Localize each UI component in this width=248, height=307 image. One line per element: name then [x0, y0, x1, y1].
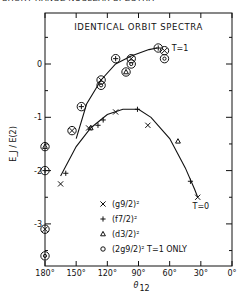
chart: 180°150°120°90°60°30°0°θ120-1-2-3E_J / E…: [0, 0, 248, 307]
t0-label: T=0: [192, 202, 210, 211]
x-tick-label: 30°: [194, 269, 208, 278]
legend-item: (f7/2)²: [100, 215, 137, 224]
series-t-0-g9-2-2: [58, 109, 200, 199]
svg-text:(2g9/2)² T=1 ONLY: (2g9/2)² T=1 ONLY: [112, 245, 187, 254]
x-tick-label: 0°: [227, 269, 236, 278]
y-tick-label: -1: [34, 113, 42, 122]
x-tick-label: 150°: [67, 269, 86, 278]
x-tick-label: 120°: [98, 269, 117, 278]
t1-curve: [76, 48, 157, 139]
t1-label: T=1: [171, 44, 189, 53]
series-t-1-f7-2-2: [41, 44, 163, 175]
plot-frame: [45, 13, 232, 266]
svg-text:(f7/2)²: (f7/2)²: [112, 215, 137, 224]
x-tick-label: 180°: [35, 269, 54, 278]
x-axis-label: θ: [134, 281, 139, 290]
x-tick-label: 90°: [131, 269, 145, 278]
y-axis-label: E_J / E(2): [9, 126, 18, 162]
y-tick-label: 0: [37, 60, 42, 69]
chart-title: IDENTICAL ORBIT SPECTRA: [74, 22, 203, 32]
x-tick-label: 60°: [163, 269, 177, 278]
svg-text:12: 12: [140, 284, 150, 293]
legend-item: (2g9/2)² T=1 ONLY: [101, 245, 187, 254]
series-t-1-2g9-2-2: [41, 54, 169, 260]
legend-item: (g9/2)²: [100, 200, 139, 209]
svg-text:(d3/2)²: (d3/2)²: [112, 230, 139, 239]
legend-item: (d3/2)²: [101, 230, 140, 239]
svg-text:(g9/2)²: (g9/2)²: [112, 200, 139, 209]
